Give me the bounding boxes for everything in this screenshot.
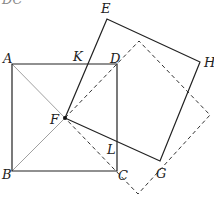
label-e: E — [100, 1, 111, 16]
label-d: D — [109, 51, 121, 66]
point-f-dot — [63, 116, 67, 120]
label-c: C — [118, 168, 128, 183]
geometry-diagram: DC A B C D E F G H K L — [0, 0, 214, 200]
label-g: G — [156, 166, 166, 181]
square-efgh — [65, 19, 200, 161]
label-a: A — [2, 51, 12, 66]
label-h: H — [203, 55, 214, 70]
label-k: K — [72, 49, 84, 64]
label-f: F — [49, 112, 60, 127]
diagonal-af — [12, 64, 65, 118]
label-l: L — [106, 142, 116, 157]
partial-caption-text: DC — [1, 0, 22, 7]
label-b: B — [1, 167, 12, 182]
